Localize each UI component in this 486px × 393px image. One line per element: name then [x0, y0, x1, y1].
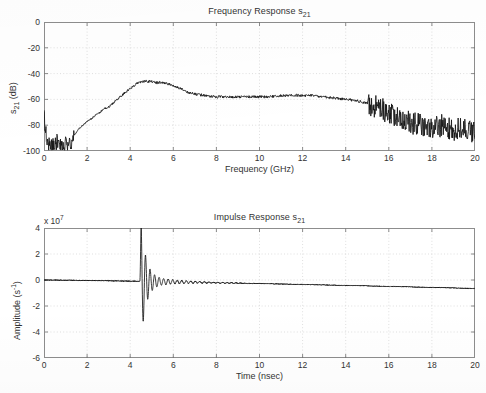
yaxis-label-superscript: -1: [10, 284, 17, 290]
xtick-label: 14: [341, 360, 350, 370]
grid-vertical: [87, 228, 432, 358]
xtick-label: 2: [85, 153, 90, 163]
xtick-label: 6: [171, 153, 176, 163]
xtick-label: 0: [42, 153, 47, 163]
xtick-label: 2: [85, 360, 90, 370]
plot-canvas-frequency-response: [44, 22, 475, 151]
yaxis-exponent-multiplier: x 107: [44, 214, 64, 226]
xtick-label: 20: [470, 360, 479, 370]
plot-canvas-impulse-response: [44, 228, 475, 358]
xaxis-label-time: Time (nsec): [44, 371, 475, 381]
xtick-label: 14: [341, 153, 350, 163]
yaxis-label-tail: ): [12, 281, 22, 284]
xtick-label: 18: [427, 360, 436, 370]
plot-title-text: Frequency Response s: [208, 6, 303, 16]
xtick-label: 10: [255, 153, 264, 163]
plot-title-frequency-response: Frequency Response s21: [44, 6, 475, 18]
plot-title-subscript: 21: [303, 11, 311, 18]
plot-title-subscript: 21: [297, 217, 305, 224]
trace-s21-impulse: [44, 228, 475, 321]
xtick-label: 4: [128, 153, 133, 163]
xtick-label: 20: [470, 153, 479, 163]
plot-title-text: Impulse Response s: [214, 212, 297, 222]
yaxis-label-s21-db: s21 (dB): [8, 82, 20, 114]
ytick-label: -100: [16, 146, 40, 156]
matlab-figure: Frequency Response s21: [0, 0, 486, 393]
exponent-superscript: 7: [60, 214, 64, 221]
xtick-label: 8: [214, 360, 219, 370]
xtick-label: 6: [171, 360, 176, 370]
xtick-label: 4: [128, 360, 133, 370]
ytick-label: -20: [16, 43, 40, 53]
ytick-label: -40: [16, 69, 40, 79]
xtick-label: 16: [384, 153, 393, 163]
xtick-label: 10: [255, 360, 264, 370]
xtick-label: 18: [427, 153, 436, 163]
grid-vertical: [87, 22, 432, 151]
ytick-label: 0: [16, 17, 40, 27]
ytick-label: 4: [18, 223, 40, 233]
yaxis-label-base: Amplitude (s: [12, 290, 22, 340]
yaxis-label-base: s: [8, 110, 18, 115]
xtick-label: 12: [298, 360, 307, 370]
subplot-frequency-response: Frequency Response s21: [44, 22, 475, 151]
yaxis-label-tail: (dB): [8, 82, 18, 102]
ytick-label: -80: [16, 120, 40, 130]
xtick-label: 12: [298, 153, 307, 163]
xtick-label: 8: [214, 153, 219, 163]
subplot-impulse-response: Impulse Response s21 x 107: [44, 228, 475, 358]
ytick-label: 2: [18, 249, 40, 259]
xtick-label: 16: [384, 360, 393, 370]
xtick-label: 0: [42, 360, 47, 370]
xaxis-label-frequency: Frequency (GHz): [44, 164, 475, 174]
exponent-base: x 10: [44, 216, 60, 226]
ytick-label: -6: [18, 353, 40, 363]
yaxis-label-amplitude: Amplitude (s-1): [10, 281, 22, 340]
plot-title-impulse-response: Impulse Response s21: [44, 212, 475, 224]
yaxis-label-subscript: 21: [13, 102, 20, 110]
